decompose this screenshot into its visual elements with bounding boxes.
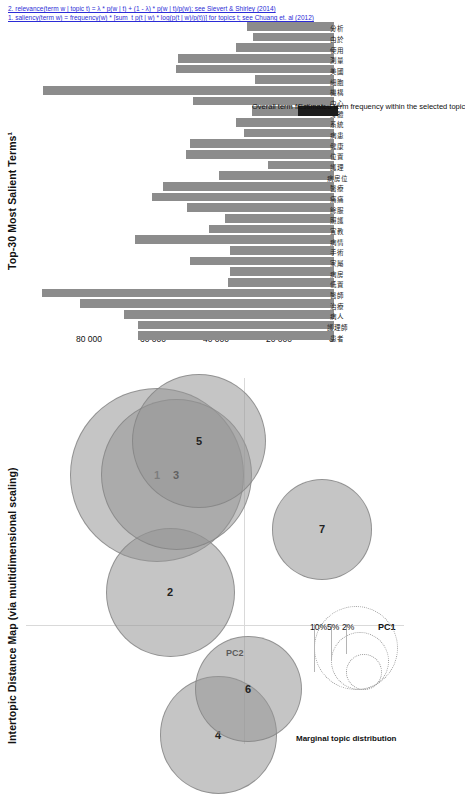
bar[interactable] <box>138 331 334 340</box>
bar-slot[interactable]: 護理師 <box>34 321 334 330</box>
bar-category-label: 位置 <box>330 154 344 161</box>
bar-slot[interactable]: 病人 <box>34 310 334 319</box>
bar-category-label: 家屬 <box>330 261 344 268</box>
marginal-ring-label-2: 2% <box>342 622 354 632</box>
bar[interactable] <box>268 161 334 170</box>
bar[interactable] <box>230 246 334 255</box>
topic-bubble-7[interactable]: 7 <box>272 479 373 580</box>
bar-slot[interactable]: 護理 <box>34 161 334 170</box>
bar-category-label: 病患 <box>330 133 344 140</box>
bar[interactable] <box>163 182 334 191</box>
bar[interactable] <box>244 129 334 138</box>
bar-slot[interactable]: 病情 <box>34 235 334 244</box>
topic-bubble-label: 5 <box>196 435 202 447</box>
bar-slot[interactable]: 治療 <box>34 299 334 308</box>
bar[interactable] <box>138 321 334 330</box>
topic-bubble-5[interactable]: 5 <box>132 374 266 508</box>
bar[interactable] <box>236 118 334 127</box>
bar-category-label: 病房 <box>330 272 344 279</box>
bar[interactable] <box>209 225 334 234</box>
bar[interactable] <box>135 235 334 244</box>
bar-category-label: 患者 <box>330 336 344 343</box>
footnote-relevance[interactable]: 2. relevance(term w | topic t) = λ * p(w… <box>8 5 276 12</box>
bar-slot[interactable]: 餘服 <box>34 203 334 212</box>
bar-category-label: 手術 <box>330 250 344 257</box>
bar-slot[interactable]: 病房位 <box>34 171 334 180</box>
bar-category-label: 治療 <box>330 304 344 311</box>
bar-slot[interactable]: 痛痛 <box>34 193 334 202</box>
bar[interactable] <box>190 139 334 148</box>
bar-slot[interactable]: 病房 <box>34 267 334 276</box>
bar-slot[interactable]: 健康 <box>34 139 334 148</box>
intertopic-distance-map-panel: Intertopic Distance Map (via multidimens… <box>0 366 417 758</box>
bar-category-label: 系統 <box>330 122 344 129</box>
bar[interactable] <box>42 289 334 298</box>
bar-category-label: 低置 <box>330 282 344 289</box>
bar-category-label: 病情 <box>330 240 344 247</box>
topic-bubble-label: 6 <box>245 683 251 695</box>
bar-slot[interactable]: 醫師 <box>34 289 334 298</box>
bar[interactable] <box>152 193 334 202</box>
bar-category-label: 護理 <box>330 165 344 172</box>
bar-category-label: 護理師 <box>327 325 348 332</box>
bar[interactable] <box>225 214 334 223</box>
marginal-legend-title: Marginal topic distribution <box>296 734 396 743</box>
topic-bubble-label: 7 <box>319 523 325 535</box>
bar-slot[interactable]: 手術 <box>34 246 334 255</box>
bar[interactable] <box>80 299 334 308</box>
bar[interactable] <box>230 267 334 276</box>
marginal-ring-label-5: 5% <box>327 622 339 632</box>
bar-slot[interactable]: 病患 <box>34 129 334 138</box>
bar-category-label: 醫師 <box>330 293 344 300</box>
map-title: Intertopic Distance Map (via multidimens… <box>6 467 18 744</box>
bar-category-label: 病房位 <box>327 176 348 183</box>
bar-category-label: 餘服 <box>330 208 344 215</box>
topic-bubble-label: 2 <box>167 586 173 598</box>
bar-category-label: 照護 <box>330 218 344 225</box>
bar-slot[interactable]: 系統 <box>34 118 334 127</box>
bar-slot[interactable]: 家屬 <box>34 257 334 266</box>
bar-category-label: 宣教 <box>330 229 344 236</box>
map-plot-area: PC1 PC2 1234567 Marginal topic distribut… <box>26 378 404 744</box>
bar[interactable] <box>124 310 334 319</box>
bar[interactable] <box>228 278 334 287</box>
bar-slot[interactable]: 照護 <box>34 214 334 223</box>
marginal-ring-label-10: 10% <box>310 622 327 632</box>
bar[interactable] <box>186 150 334 159</box>
bar-slot[interactable]: 醫療 <box>34 182 334 191</box>
bar-category-label: 病人 <box>330 314 344 321</box>
bar-slot[interactable]: 位置 <box>34 150 334 159</box>
bar-category-label: 痛痛 <box>330 197 344 204</box>
bar-slot[interactable]: 患者 <box>34 331 334 340</box>
bar[interactable] <box>187 203 334 212</box>
bar-category-label: 健康 <box>330 144 344 151</box>
salient-terms-panel: Top-30 Most Salient Terms¹ 020 00040 000… <box>0 0 417 366</box>
bar-category-label: 醫療 <box>330 186 344 193</box>
footnote-saliency[interactable]: 1. saliency(term w) = frequency(w) * [su… <box>8 14 314 21</box>
bar[interactable] <box>219 171 334 180</box>
bar-slot[interactable]: 低置 <box>34 278 334 287</box>
marginal-topic-distribution-legend: Marginal topic distribution 10% 5% 2% <box>296 586 404 736</box>
bar-chart-title: Top-30 Most Salient Terms¹ <box>6 132 18 270</box>
marginal-ring-2 <box>346 654 382 690</box>
legend-label-estimated: Estimated term frequency within the sele… <box>298 102 465 111</box>
topic-bubble-6[interactable]: 6 <box>195 636 301 742</box>
bar[interactable] <box>190 257 334 266</box>
bar-slot[interactable]: 宣教 <box>34 225 334 234</box>
